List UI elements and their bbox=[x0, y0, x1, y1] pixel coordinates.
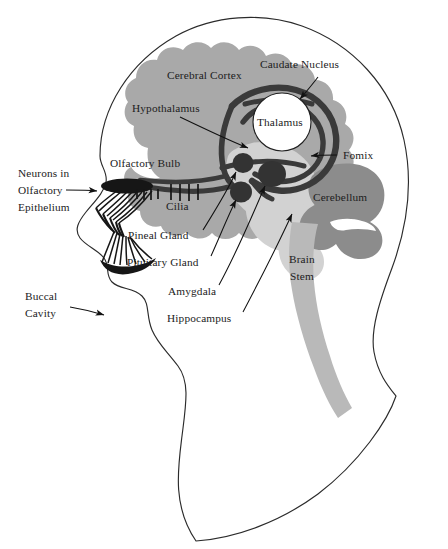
pituitary-gland-shape bbox=[230, 182, 252, 203]
label-cilia: Cilia bbox=[166, 200, 189, 212]
label-thalamus: Thalamus bbox=[257, 116, 303, 128]
label-pineal-gland: Pineal Gland bbox=[128, 229, 189, 241]
anatomy-illustration: Cerebral Cortex Caudate Nucleus Hypothal… bbox=[0, 0, 448, 549]
label-amygdala: Amygdala bbox=[168, 285, 216, 297]
anatomy-diagram: Cerebral Cortex Caudate Nucleus Hypothal… bbox=[0, 0, 448, 549]
leader-buccal-cavity bbox=[70, 307, 104, 315]
label-cerebellum: Cerebellum bbox=[313, 191, 367, 203]
leader-neurons-olfactory-epithelium bbox=[66, 190, 97, 191]
label-pituitary-gland: Pituitary Gland bbox=[127, 256, 199, 268]
label-caudate-nucleus: Caudate Nucleus bbox=[260, 58, 339, 70]
label-brain-stem-line2: Stem bbox=[290, 270, 314, 282]
olfactory-bulb-shape bbox=[101, 178, 153, 193]
label-neurons-line2: Olfactory bbox=[18, 184, 63, 196]
amygdala-shape bbox=[258, 161, 286, 187]
label-buccal-line2: Cavity bbox=[25, 307, 56, 319]
label-hippocampus: Hippocampus bbox=[167, 312, 231, 324]
label-buccal-line1: Buccal bbox=[25, 290, 57, 302]
label-neurons-line1: Neurons in bbox=[18, 167, 70, 179]
label-cerebral-cortex: Cerebral Cortex bbox=[167, 69, 242, 81]
label-fornix: Fomix bbox=[343, 149, 373, 161]
label-brain-stem-line1: Brain bbox=[289, 253, 315, 265]
pineal-gland-shape bbox=[233, 153, 254, 173]
label-olfactory-bulb: Olfactory Bulb bbox=[110, 157, 180, 169]
label-neurons-line3: Epithelium bbox=[18, 201, 70, 213]
label-hypothalamus: Hypothalamus bbox=[132, 102, 200, 114]
